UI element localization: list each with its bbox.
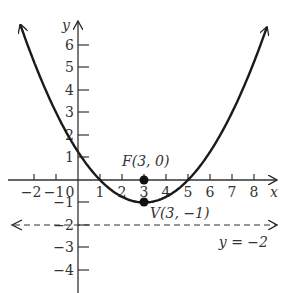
svg-text:6: 6	[206, 184, 215, 200]
svg-text:−4: −4	[53, 262, 74, 278]
focus-label: F(3, 0)	[121, 153, 169, 169]
y-axis-label: y	[61, 17, 71, 33]
svg-text:−1: −1	[53, 194, 74, 210]
x-axis-label: x	[270, 184, 278, 200]
focus-point	[140, 176, 149, 185]
svg-text:2: 2	[65, 127, 74, 143]
directrix-label: y = −2	[218, 234, 268, 250]
svg-text:−2: −2	[21, 184, 42, 200]
svg-text:1: 1	[96, 184, 105, 200]
svg-text:4: 4	[65, 82, 74, 98]
vertex-label: V(3, −1)	[150, 205, 209, 221]
vertex-point	[140, 198, 149, 207]
svg-text:−3: −3	[53, 239, 74, 255]
y-tick-labels: 6 5 4 3 2 1 −1 −2 −3 −4	[53, 37, 74, 278]
svg-text:5: 5	[65, 59, 74, 75]
svg-text:7: 7	[228, 184, 237, 200]
svg-text:6: 6	[65, 37, 74, 53]
svg-text:1: 1	[65, 149, 74, 165]
svg-text:8: 8	[250, 184, 259, 200]
y-ticks	[78, 45, 89, 270]
parabola-graph: −2 −1 0 1 2 3 4 5 6 7 8 x 6 5 4 3 2 1 −1…	[0, 0, 287, 293]
svg-text:5: 5	[184, 184, 193, 200]
svg-text:3: 3	[65, 104, 74, 120]
